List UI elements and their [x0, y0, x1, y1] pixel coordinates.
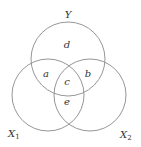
- region-label-a: a: [43, 68, 49, 79]
- set-label-y: Y: [65, 9, 73, 20]
- region-label-c: c: [64, 76, 70, 87]
- region-label-b: b: [85, 68, 91, 79]
- set-label-x1: X1: [7, 128, 20, 141]
- set-label-x2-sub: 2: [127, 134, 131, 142]
- set-label-x2: X2: [119, 129, 132, 142]
- region-label-d: d: [64, 39, 70, 50]
- set-label-x1-sub: 1: [15, 133, 19, 141]
- venn-diagram: Y X1 X2 d a b c e: [0, 0, 141, 147]
- region-label-e: e: [64, 96, 70, 107]
